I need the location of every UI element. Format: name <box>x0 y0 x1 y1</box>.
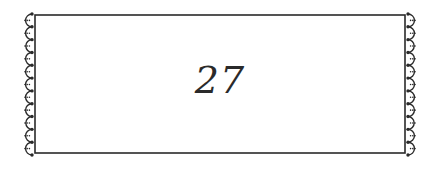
scallop-inner-dot <box>24 32 26 34</box>
scallop-inner-dot <box>412 109 414 111</box>
scallop-inner-dot <box>29 135 31 137</box>
scallop-dot <box>406 38 409 41</box>
scallop-inner-dot <box>410 20 412 22</box>
scallop-inner-dot <box>414 122 416 124</box>
scallop-inner-dot <box>24 20 26 22</box>
scallop-dot <box>406 51 409 54</box>
scallop-inner-dot <box>414 20 416 22</box>
scallop-inner-dot <box>26 45 28 47</box>
scallop-dot <box>30 51 33 54</box>
scallop-dot <box>406 128 409 131</box>
scallop-inner-dot <box>29 122 31 124</box>
scallop-inner-dot <box>414 148 416 150</box>
scallop-inner-dot <box>410 135 412 137</box>
scallop-dot <box>406 102 409 105</box>
scallop-inner-dot <box>24 45 26 47</box>
scallop-inner-dot <box>410 148 412 150</box>
scallop-inner-dot <box>29 109 31 111</box>
scallop-inner-dot <box>26 32 28 34</box>
scallop-inner-dot <box>24 109 26 111</box>
scallop-inner-dot <box>24 148 26 150</box>
scallop-inner-dot <box>412 148 414 150</box>
scallop-inner-dot <box>412 135 414 137</box>
scallop-inner-dot <box>410 32 412 34</box>
scallop-inner-dot <box>412 20 414 22</box>
scallop-inner-dot <box>414 45 416 47</box>
scallop-inner-dot <box>24 122 26 124</box>
label-number: 27 <box>0 58 440 102</box>
scallop-inner-dot <box>412 45 414 47</box>
scallop-inner-dot <box>26 148 28 150</box>
scallop-dot <box>30 140 33 143</box>
scallop-dot <box>406 140 409 143</box>
scallop-inner-dot <box>26 20 28 22</box>
scallop-inner-dot <box>29 45 31 47</box>
scallop-inner-dot <box>26 122 28 124</box>
scallop-dot <box>406 12 409 15</box>
scallop-inner-dot <box>24 135 26 137</box>
scallop-dot <box>406 25 409 28</box>
scallop-dot <box>30 115 33 118</box>
scallop-dot <box>30 102 33 105</box>
scallop-dot <box>30 153 33 156</box>
scallop-inner-dot <box>29 148 31 150</box>
scallop-inner-dot <box>412 122 414 124</box>
scallop-inner-dot <box>26 135 28 137</box>
scallop-inner-dot <box>412 32 414 34</box>
scallop-inner-dot <box>414 32 416 34</box>
scallop-dot <box>30 38 33 41</box>
scallop-inner-dot <box>414 109 416 111</box>
scallop-inner-dot <box>29 32 31 34</box>
scallop-inner-dot <box>26 109 28 111</box>
scallop-inner-dot <box>410 109 412 111</box>
scallop-dot <box>30 12 33 15</box>
scallop-inner-dot <box>410 45 412 47</box>
scallop-inner-dot <box>414 135 416 137</box>
scallop-dot <box>406 153 409 156</box>
scallop-inner-dot <box>29 20 31 22</box>
scallop-dot <box>30 25 33 28</box>
scallop-dot <box>30 128 33 131</box>
scallop-dot <box>406 115 409 118</box>
scallop-inner-dot <box>410 122 412 124</box>
